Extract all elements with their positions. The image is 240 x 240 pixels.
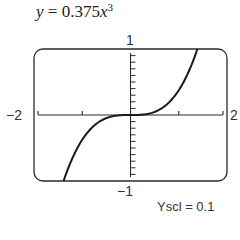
x-max-label: 2 xyxy=(230,108,238,122)
yscl-label: Yscl = 0.1 xyxy=(157,200,214,214)
y-max-label: 1 xyxy=(126,33,134,47)
x-min-label: −2 xyxy=(6,108,22,122)
y-min-label: −1 xyxy=(117,184,133,198)
